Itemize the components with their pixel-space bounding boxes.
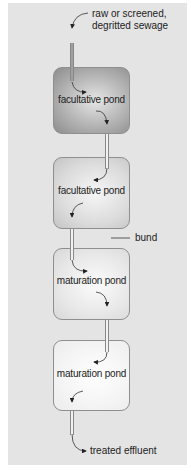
pond3-outflow-arrow-icon — [96, 292, 107, 306]
pond2-inflow-arrow-icon — [94, 168, 107, 180]
pond1-outflow-arrow-icon — [96, 111, 107, 124]
pond3-inflow-arrow-icon — [72, 260, 87, 271]
pond4-inflow-arrow-icon — [94, 352, 107, 362]
inlet-arrow-icon — [72, 13, 88, 28]
pond2-outflow-arrow-icon — [72, 203, 83, 217]
flow-arrows — [0, 0, 191, 471]
outlet-arrow-icon — [72, 434, 86, 451]
bund-label: bund — [135, 232, 157, 244]
pond4-outflow-arrow-icon — [72, 391, 83, 402]
pond1-inflow-arrow-icon — [72, 82, 86, 92]
outlet-label: treated effluent — [90, 445, 157, 457]
